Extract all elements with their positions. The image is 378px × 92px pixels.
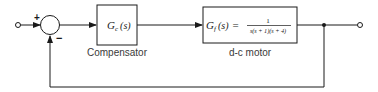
compensator-caption: Compensator bbox=[87, 47, 148, 58]
plus-sign: + bbox=[34, 12, 40, 23]
motor-numerator: 1 bbox=[266, 17, 270, 25]
minus-sign: − bbox=[56, 32, 62, 44]
input-terminal bbox=[16, 23, 21, 28]
output-terminal bbox=[358, 23, 363, 28]
block-diagram: + − Gc(s) Compensator Gf(s)= 1 s(s + 1)(… bbox=[0, 0, 378, 92]
motor-caption: d-c motor bbox=[229, 47, 272, 58]
motor-transfer-function-lhs: Gf(s)= bbox=[206, 19, 239, 33]
motor-denominator: s(s + 1)(s + 4) bbox=[250, 27, 286, 35]
compensator-transfer-function: Gc(s) bbox=[107, 19, 131, 33]
